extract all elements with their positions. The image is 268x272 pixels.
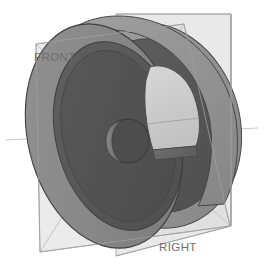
cad-viewport[interactable]: FRONT RIGHT bbox=[0, 0, 268, 272]
center-bore-hub[interactable] bbox=[106, 119, 149, 163]
3d-model-scene[interactable] bbox=[0, 0, 268, 272]
